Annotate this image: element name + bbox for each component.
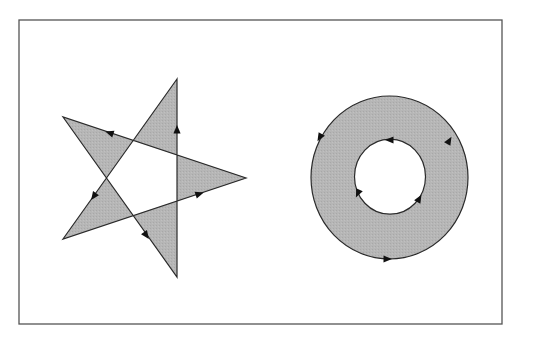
diagram-canvas [0, 0, 537, 341]
annulus-path [311, 96, 468, 259]
pentagram-path [63, 79, 246, 277]
star-shape [63, 79, 246, 277]
ring-shape [311, 96, 468, 263]
figure [0, 0, 537, 341]
